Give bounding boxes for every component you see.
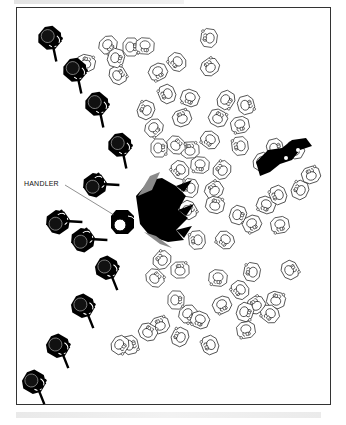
crowd-person-icon [236,321,256,340]
crowd-person-icon [236,94,256,116]
crowd-person-icon [213,228,237,252]
crowd-person-icon [242,262,261,283]
crowd-person-icon [208,269,228,287]
crowd-person-icon [199,334,221,357]
handler-figure [111,210,135,234]
crowd-person-icon [210,158,234,182]
crowd-person-icon [231,136,249,156]
riot-officer-icon [17,367,56,404]
crowd-person-icon [188,230,206,250]
riot-officer-icon [80,165,120,203]
crowd-person-icon [143,266,167,290]
riot-officer-icon [90,253,129,290]
crowd-person-icon [198,128,222,152]
riot-officer-icon [103,130,143,169]
crowd-person-icon [135,98,157,121]
crowd-person-icon [230,115,251,134]
crowd-person-icon [171,261,190,278]
crowd-person-icon [169,325,192,348]
riot-officer-icon [68,220,108,258]
riot-officer-icon [41,331,80,368]
crowd-person-icon [210,294,233,316]
crowd-group [76,28,322,357]
crowd-person-icon [206,106,230,129]
crowd-person-icon [228,278,252,302]
crowd-person-icon [135,37,154,55]
handler-label: HANDLER [24,180,59,187]
crowd-person-icon [146,61,169,84]
crowd-control-scene [0,0,346,425]
k9-dog-group [136,172,194,248]
crowd-person-icon [171,107,193,128]
crowd-person-icon [151,139,168,157]
crowd-person-icon [179,87,201,108]
crowd-person-icon [150,248,174,272]
crowd-person-icon [204,195,225,215]
crowd-person-icon [168,291,185,310]
crowd-person-icon [270,216,291,235]
crowd-person-icon [165,50,189,74]
crowd-person-icon [190,156,209,174]
crowd-person-icon [279,258,302,282]
riot-officer-icon [80,89,120,128]
cropped-caption-bottom [16,412,321,418]
riot-officer-icon [33,23,73,62]
crowd-person-icon [200,28,219,48]
crowd-person-icon [214,88,237,112]
riot-officer-icon [66,291,105,328]
crowd-person-icon [198,55,222,79]
crowd-person-icon [156,83,178,106]
